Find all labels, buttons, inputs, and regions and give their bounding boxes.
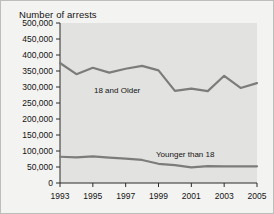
y-axis-tick-label: 100,000 — [0, 146, 53, 156]
y-axis-tick-label: 150,000 — [0, 130, 53, 140]
y-axis-tick-label: 250,000 — [0, 98, 53, 108]
y-axis-tick-label: 50,000 — [0, 162, 53, 172]
y-axis-tick-label: 500,000 — [0, 18, 53, 28]
x-axis-tick-label: 1999 — [149, 191, 168, 201]
y-axis-ticks — [56, 23, 60, 183]
x-axis-tick-label: 2005 — [248, 191, 267, 201]
series-label-younger-than-18: Younger than 18 — [156, 150, 214, 159]
chart-figure: Number of arrests 050,000100,000150,0002… — [0, 0, 274, 214]
x-axis-tick-label: 1997 — [116, 191, 135, 201]
y-axis-tick-label: 400,000 — [0, 50, 53, 60]
y-axis-tick-label: 450,000 — [0, 34, 53, 44]
y-axis-tick-label: 300,000 — [0, 82, 53, 92]
series-line-18-and-older — [60, 63, 257, 91]
y-axis-tick-label: 200,000 — [0, 114, 53, 124]
x-axis-tick-label: 2003 — [215, 191, 234, 201]
y-axis-tick-label: 0 — [0, 178, 53, 188]
x-axis-tick-label: 1993 — [51, 191, 70, 201]
series-label-18-and-older: 18 and Older — [94, 86, 140, 95]
x-axis-tick-label: 2001 — [182, 191, 201, 201]
x-axis-ticks — [60, 183, 257, 187]
y-axis-tick-label: 350,000 — [0, 66, 53, 76]
x-axis-tick-label: 1995 — [83, 191, 102, 201]
